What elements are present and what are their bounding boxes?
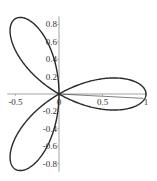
polar-rose-chart: -0.500.510.80.60.40.2-0.2-0.4-0.6-0.8 [0,0,157,181]
y-tick-label: 0.8 [46,19,58,29]
y-tick-label: 0.2 [46,72,57,82]
axes [7,16,147,171]
y-tick-label: -0.8 [43,159,58,169]
y-tick-label: -0.2 [43,106,57,116]
x-tick-label: 0.5 [97,97,109,107]
x-tick-label: -0.5 [8,97,23,107]
